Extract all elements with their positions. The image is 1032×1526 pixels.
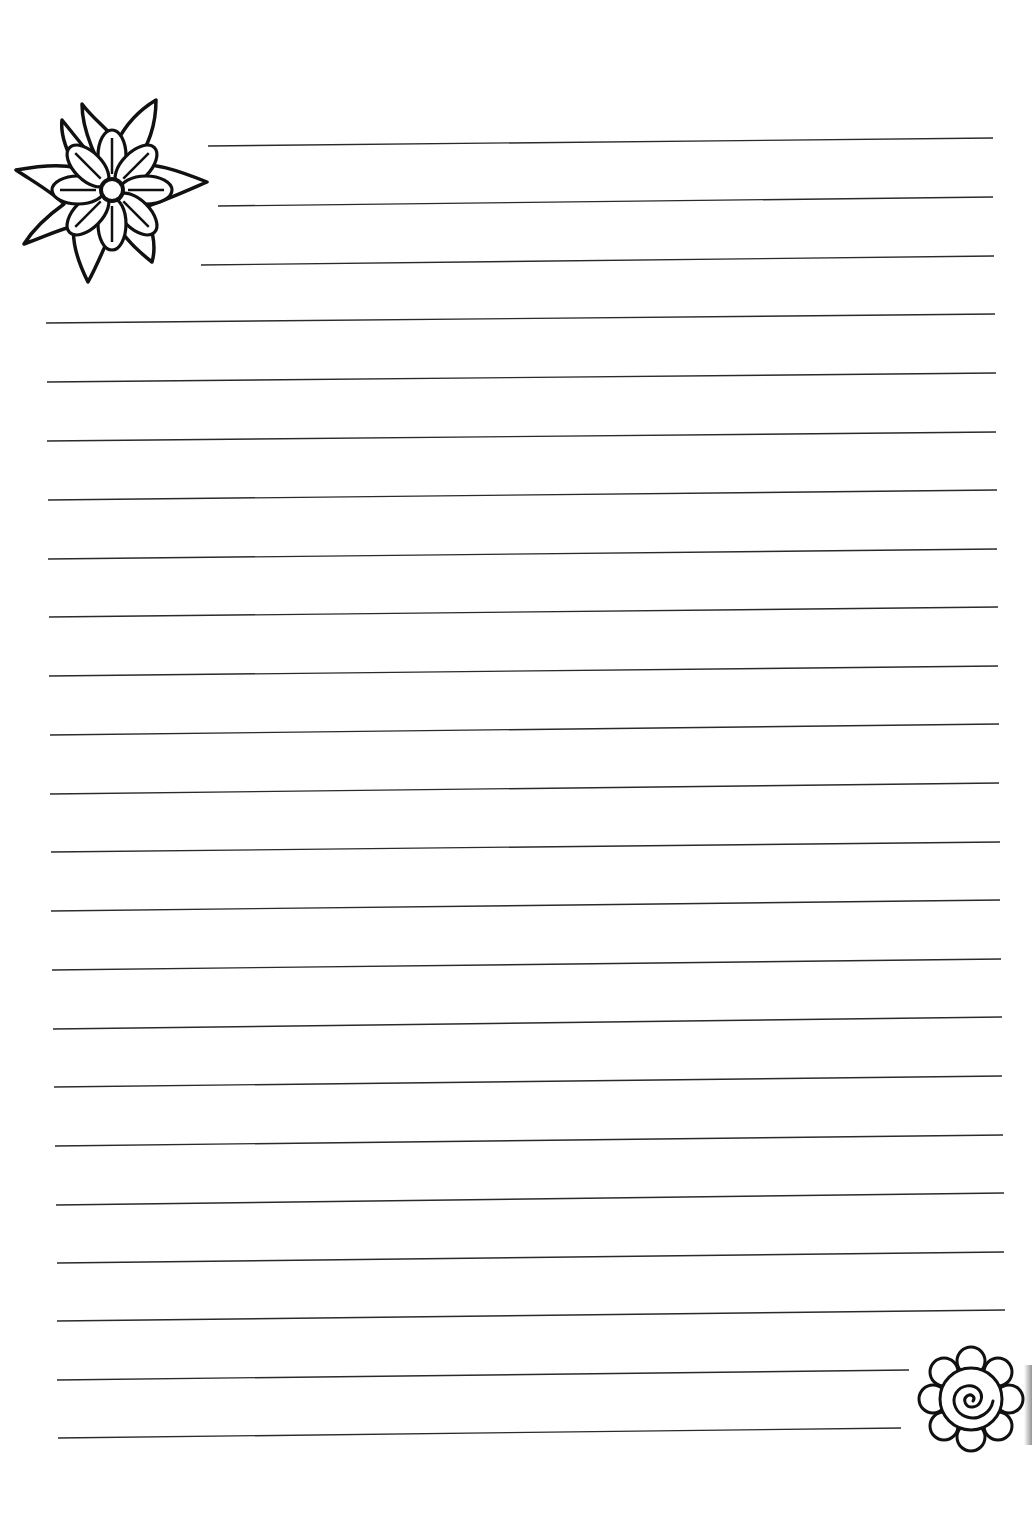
star-flower-icon xyxy=(12,90,212,290)
page-edge-shadow xyxy=(1024,1365,1032,1445)
spiral-flower-icon xyxy=(912,1340,1030,1458)
